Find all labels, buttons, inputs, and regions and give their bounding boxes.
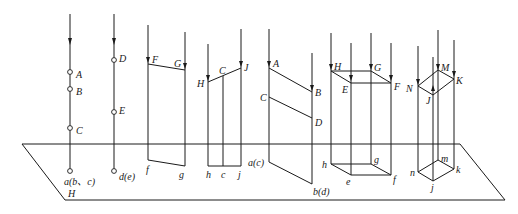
group-segments-ab-cd: A B C D a(c) b(d) (248, 29, 330, 198)
group-rectangle: H G E F h g e f (322, 33, 401, 187)
label-b: B (315, 87, 321, 98)
projection-rectangle-hgfe (331, 164, 391, 175)
projection-segment-fg (148, 160, 185, 166)
label-n: N (405, 83, 414, 94)
label-c: C (260, 92, 267, 103)
arrow-icon (183, 63, 187, 69)
label-a: A (75, 69, 83, 80)
arrow-icon (112, 38, 116, 45)
label-proj-m: m (441, 153, 448, 164)
label-projection-de: d(e) (119, 171, 136, 183)
group-points-de: D E d(e) (112, 14, 136, 183)
label-h: H (333, 61, 342, 72)
arrow-icon (349, 75, 353, 81)
point-d (112, 58, 117, 63)
label-proj-n: n (410, 167, 415, 178)
label-proj-k: k (456, 164, 461, 175)
arrow-icon (329, 64, 333, 70)
label-proj-c: c (221, 169, 226, 180)
label-j: J (244, 62, 249, 73)
arrow-icon (267, 61, 271, 67)
label-m: M (440, 62, 450, 73)
arrow-icon (68, 38, 72, 45)
arrow-icon (310, 85, 314, 91)
arrow-icon (416, 79, 420, 85)
label-proj-h: h (206, 169, 211, 180)
label-c: C (219, 65, 226, 76)
group-segment-fg: F G f g (146, 25, 187, 180)
point-c (68, 126, 73, 131)
label-e: E (341, 84, 348, 95)
label-f: F (151, 54, 159, 65)
group-points-abc: A B C a(b、c) (64, 14, 96, 188)
segment-cd (269, 97, 312, 118)
projection-point-de (112, 169, 117, 174)
label-proj-g: g (179, 169, 184, 180)
label-proj-j: j (429, 182, 434, 193)
label-proj-h: h (322, 159, 327, 170)
label-proj-g: g (374, 154, 379, 165)
arrow-icon (431, 85, 435, 91)
label-proj-e: e (346, 176, 351, 187)
segment-ab (269, 68, 312, 92)
point-a (68, 70, 73, 75)
label-b: B (76, 86, 82, 97)
rectangle-hgfe (331, 71, 391, 83)
point-e (112, 110, 117, 115)
label-proj-j: j (236, 169, 241, 180)
arrow-icon (436, 64, 440, 70)
group-segment-hj: H C J h c j (196, 29, 249, 180)
label-g: G (174, 58, 181, 69)
arrow-icon (146, 57, 150, 63)
projection-segment-ab-cd (269, 162, 312, 184)
label-proj-bd: b(d) (313, 186, 330, 198)
label-d: D (118, 53, 127, 64)
label-e: E (118, 105, 125, 116)
label-proj-ac: a(c) (248, 157, 265, 169)
projection-point-abc (68, 169, 73, 174)
label-d: D (314, 117, 323, 128)
arrow-icon (206, 75, 210, 81)
arrow-icon (389, 75, 393, 81)
arrow-icon (239, 61, 243, 67)
rhombus-mknj (418, 70, 454, 95)
point-b (68, 87, 73, 92)
label-proj-f: f (146, 164, 150, 175)
arrow-icon (369, 64, 373, 70)
label-j: J (426, 95, 431, 106)
projection-diagram: H A B C a(b、c) D E d(e) F G f g (0, 0, 518, 214)
label-f: F (393, 81, 401, 92)
projection-rhombus-mknj (418, 160, 454, 181)
label-k: K (455, 75, 464, 86)
label-h: H (196, 78, 205, 89)
label-g: G (374, 62, 381, 73)
group-rhombus: M K N J m k n j (405, 30, 464, 193)
label-proj-f: f (393, 174, 397, 185)
label-c: C (76, 125, 83, 136)
label-projection-abc: a(b、c) (64, 176, 96, 188)
plane-label-h: H (67, 188, 76, 199)
label-a: A (272, 58, 280, 69)
